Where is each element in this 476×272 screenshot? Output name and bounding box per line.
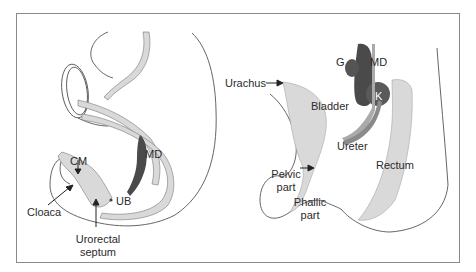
label-ureteric-bud: UB [116,195,131,207]
label-pelvic-part-line1: Pelvic [268,168,304,180]
left-mullerian-duct [127,135,147,196]
figure-artwork [0,0,476,272]
label-ureter: Ureter [337,140,368,152]
label-gonad: G [336,56,345,68]
label-urachus: Urachus [225,77,266,89]
left-gut-tube [58,32,174,220]
label-phallic-part-line1: Phallic [290,196,330,208]
label-urorectal-septum-line1: Urorectal [70,233,126,245]
label-cloacal-membrane: CM [70,155,87,167]
label-phallic-part-line2: part [290,209,330,221]
embryology-figure: CM MD UB Cloaca Urorectal septum Urachus… [0,0,476,272]
ub-dot [109,198,112,201]
label-bladder: Bladder [311,100,349,112]
label-pelvic-part-line2: part [268,181,304,193]
label-kidney: K [375,90,382,102]
gonad [345,59,359,77]
label-mullerian-duct-right: MD [370,56,387,68]
label-mullerian-duct-left: MD [145,148,162,160]
label-urorectal-septum-line2: septum [70,246,126,258]
label-cloaca: Cloaca [27,206,61,218]
label-rectum: Rectum [376,159,414,171]
